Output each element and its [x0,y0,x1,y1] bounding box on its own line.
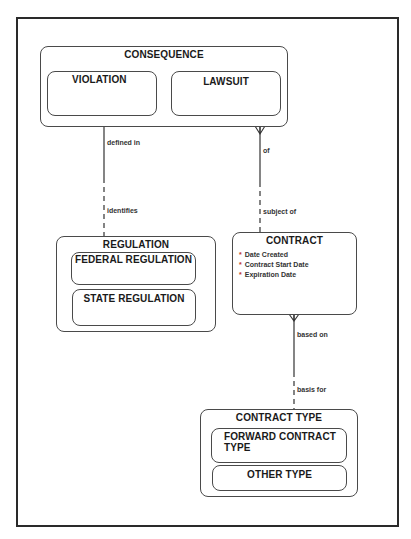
attribute-list: *Date Created *Contract Start Date *Expi… [239,250,309,280]
relationship-label-of: of [263,147,270,154]
relationship-label-based-on: based on [297,331,328,338]
relationship-label-subject-of: subject of [263,208,296,215]
entity-title: CONTRACT TYPE [201,412,357,423]
entity-contract-type[interactable]: CONTRACT TYPE FORWARD CONTRACT TYPE OTHE… [200,409,358,497]
entity-consequence[interactable]: CONSEQUENCE VIOLATION LAWSUIT [40,46,288,127]
subtype-violation[interactable]: VIOLATION [47,71,157,116]
subtype-title: FORWARD CONTRACT TYPE [212,431,346,453]
mandatory-marker-icon: * [239,261,242,268]
subtype-title: VIOLATION [48,74,156,85]
subtype-title: FEDERAL REGULATION [72,254,195,265]
crows-foot-icon [289,314,299,321]
mandatory-marker-icon: * [239,251,242,258]
entity-title: CONSEQUENCE [41,49,287,60]
crows-foot-icon [255,126,265,134]
relationship-label-basis-for: basis for [297,386,326,393]
attribute-contract-start-date: *Contract Start Date [239,260,309,270]
relationship-label-defined-in: defined in [107,139,140,146]
subtype-forward-contract-type[interactable]: FORWARD CONTRACT TYPE [211,428,347,463]
entity-regulation[interactable]: REGULATION FEDERAL REGULATION STATE REGU… [56,236,216,332]
entity-contract[interactable]: CONTRACT *Date Created *Contract Start D… [232,232,357,315]
subtype-federal-regulation[interactable]: FEDERAL REGULATION [71,252,196,285]
relationship-contract-contracttype [289,314,299,409]
subtype-other-type[interactable]: OTHER TYPE [212,465,347,491]
subtype-title: OTHER TYPE [213,469,346,480]
entity-title: REGULATION [57,239,215,250]
attribute-date-created: *Date Created [239,250,309,260]
subtype-lawsuit[interactable]: LAWSUIT [171,71,281,116]
subtype-state-regulation[interactable]: STATE REGULATION [72,289,196,326]
relationship-label-identifies: identifies [107,207,138,214]
attribute-expiration-date: *Expiration Date [239,270,309,280]
relationship-violation-regulation [99,115,109,236]
subtype-title: STATE REGULATION [73,293,195,304]
mandatory-marker-icon: * [239,271,242,278]
entity-title: CONTRACT [233,235,356,246]
subtype-title: LAWSUIT [172,76,280,87]
relationship-consequence-contract [255,126,265,232]
